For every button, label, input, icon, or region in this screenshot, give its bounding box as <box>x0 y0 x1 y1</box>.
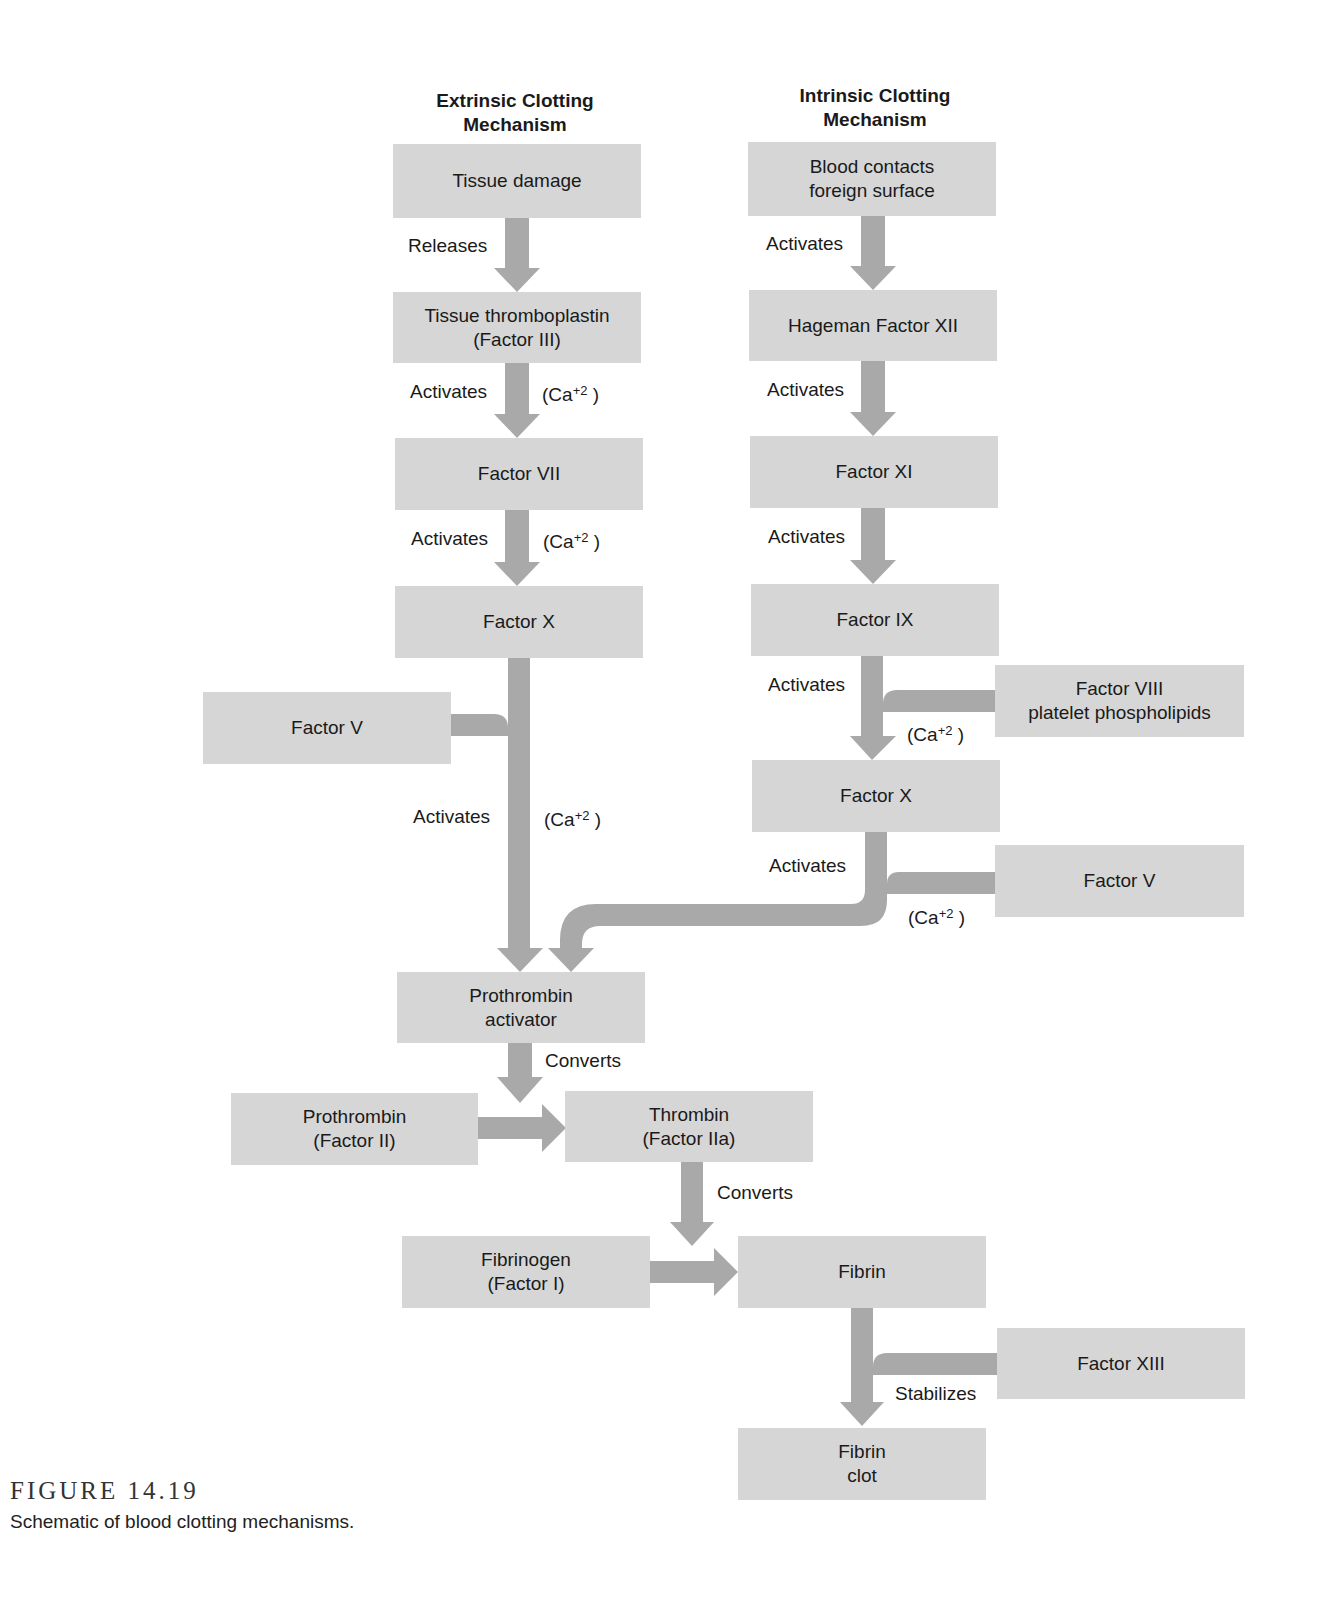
label-calcium: (Ca+2 ) <box>908 903 965 929</box>
box-fibrinogen: Fibrinogen (Factor I) <box>402 1236 650 1308</box>
box-blood-contacts: Blood contacts foreign surface <box>748 142 996 216</box>
ca-text: ) <box>589 809 601 830</box>
arrow-down-icon <box>494 363 540 438</box>
box-factor-viii: Factor VIII platelet phospholipids <box>995 665 1244 737</box>
arrow-down-icon <box>850 361 896 436</box>
arrow-right-icon <box>650 1248 738 1296</box>
box-factor-v-left: Factor V <box>203 692 451 764</box>
figure-number: FIGURE 14.19 <box>10 1477 199 1505</box>
ca-text: (Ca <box>544 809 575 830</box>
label-converts: Converts <box>545 1050 621 1072</box>
label-calcium: (Ca+2 ) <box>907 720 964 746</box>
ca-sup: +2 <box>574 530 589 545</box>
box-text: Factor XIII <box>1077 1352 1165 1376</box>
ca-sup: +2 <box>939 906 954 921</box>
box-text: Factor VIII <box>1076 677 1164 701</box>
ca-text: ) <box>588 531 600 552</box>
box-text: foreign surface <box>809 179 935 203</box>
arrow-down-icon <box>850 508 896 584</box>
connector-factor-x-to-activator <box>560 832 887 950</box>
box-factor-v-right: Factor V <box>995 845 1244 917</box>
ca-text: (Ca <box>543 531 574 552</box>
box-factor-ix: Factor IX <box>751 584 999 656</box>
box-prothrombin: Prothrombin (Factor II) <box>231 1093 478 1165</box>
connector-factor-v-right <box>887 872 995 894</box>
arrow-right-icon <box>478 1104 566 1152</box>
ca-sup: +2 <box>938 723 953 738</box>
box-factor-xi: Factor XI <box>750 436 998 508</box>
box-text: activator <box>485 1008 557 1032</box>
box-text: Prothrombin <box>469 984 573 1008</box>
box-text: Factor VII <box>478 462 560 486</box>
ca-sup: +2 <box>575 808 590 823</box>
label-calcium: (Ca+2 ) <box>543 527 600 553</box>
label-activates: Activates <box>769 855 846 877</box>
box-text: Thrombin <box>649 1103 729 1127</box>
box-thrombin: Thrombin (Factor IIa) <box>565 1091 813 1162</box>
arrow-down-icon <box>497 1043 543 1103</box>
ca-text: (Ca <box>907 724 938 745</box>
arrow-down-icon <box>548 948 594 972</box>
box-text: Fibrinogen <box>481 1248 571 1272</box>
box-factor-x-extrinsic: Factor X <box>395 586 643 658</box>
label-activates: Activates <box>766 233 843 255</box>
connector-factor-viii <box>883 690 995 712</box>
box-text: (Factor II) <box>313 1129 395 1153</box>
arrow-down-icon <box>497 658 543 972</box>
box-text: Factor X <box>483 610 555 634</box>
box-text: Factor V <box>1084 869 1156 893</box>
box-fibrin-clot: Fibrin clot <box>738 1428 986 1500</box>
box-text: Fibrin <box>838 1260 886 1284</box>
figure-caption: Schematic of blood clotting mechanisms. <box>10 1511 354 1533</box>
label-releases: Releases <box>408 235 487 257</box>
box-text: Prothrombin <box>303 1105 407 1129</box>
arrow-down-icon <box>494 510 540 586</box>
box-fibrin: Fibrin <box>738 1236 986 1308</box>
box-text: Factor XI <box>835 460 912 484</box>
ca-text: (Ca <box>908 907 939 928</box>
box-factor-x-intrinsic: Factor X <box>752 760 1000 832</box>
box-text: clot <box>847 1464 877 1488</box>
label-activates: Activates <box>410 381 487 403</box>
box-text: platelet phospholipids <box>1028 701 1211 725</box>
box-text: (Factor I) <box>487 1272 564 1296</box>
label-activates: Activates <box>413 806 490 828</box>
label-stabilizes: Stabilizes <box>895 1383 976 1405</box>
box-tissue-thromboplastin: Tissue thromboplastin (Factor III) <box>393 292 641 363</box>
ca-text: ) <box>952 724 964 745</box>
box-text: (Factor IIa) <box>643 1127 736 1151</box>
box-text: Blood contacts <box>810 155 935 179</box>
connector-factor-v-left <box>451 714 508 736</box>
box-text: Factor X <box>840 784 912 808</box>
arrow-down-icon <box>850 216 896 290</box>
ca-text: (Ca <box>542 384 573 405</box>
connector-factor-xiii <box>873 1353 997 1375</box>
ca-text: ) <box>953 907 965 928</box>
box-text: Tissue damage <box>452 169 581 193</box>
ca-text: ) <box>587 384 599 405</box>
arrow-down-icon <box>494 218 540 292</box>
box-hageman-factor-xii: Hageman Factor XII <box>749 290 997 361</box>
label-activates: Activates <box>768 526 845 548</box>
label-calcium: (Ca+2 ) <box>542 380 599 406</box>
box-text: (Factor III) <box>473 328 561 352</box>
label-activates: Activates <box>411 528 488 550</box>
box-factor-vii: Factor VII <box>395 438 643 510</box>
box-text: Fibrin <box>838 1440 886 1464</box>
box-factor-xiii: Factor XIII <box>997 1328 1245 1399</box>
box-prothrombin-activator: Prothrombin activator <box>397 972 645 1043</box>
label-activates: Activates <box>768 674 845 696</box>
label-calcium: (Ca+2 ) <box>544 805 601 831</box>
box-text: Factor IX <box>836 608 913 632</box>
box-tissue-damage: Tissue damage <box>393 144 641 218</box>
label-converts: Converts <box>717 1182 793 1204</box>
ca-sup: +2 <box>573 383 588 398</box>
box-text: Factor V <box>291 716 363 740</box>
box-text: Tissue thromboplastin <box>424 304 609 328</box>
box-text: Hageman Factor XII <box>788 314 958 338</box>
arrow-down-icon <box>670 1162 714 1246</box>
label-activates: Activates <box>767 379 844 401</box>
